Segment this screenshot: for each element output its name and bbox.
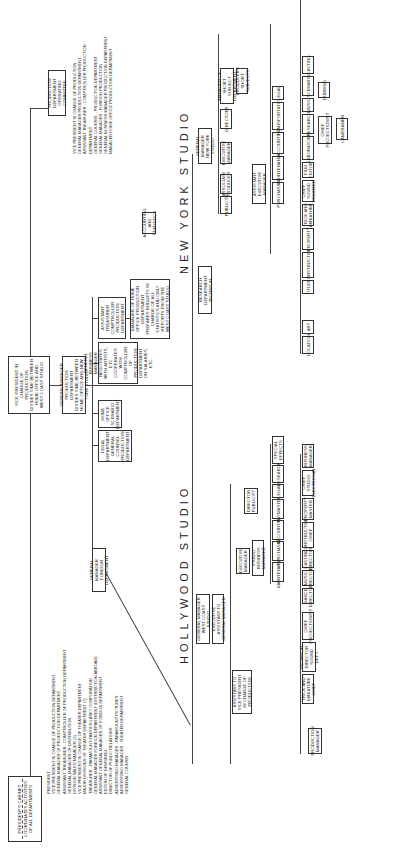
- business-manager-hw-box: BUSINESS MANAGER: [302, 444, 314, 468]
- asst-vp-box: ASSISTANT TO VICE PRESIDENT IN CHARGE OF…: [232, 670, 252, 714]
- property-master-box: PROPERTY MASTER: [302, 498, 314, 520]
- legal-dept-box: LEGAL DEPARTMENT GENERAL COUNSEL PRODUCT…: [98, 430, 132, 462]
- newyork-label: NEW YORK STUDIO: [178, 110, 190, 274]
- production-manager-box: PRODUCTION MANAGER: [308, 728, 322, 754]
- laboratory-ny-box: LABORATORY: [302, 136, 314, 160]
- dubbing-ny-box: DUBBING: [318, 82, 330, 98]
- transportation-ny-box: TRANSPORTATION: [272, 102, 284, 130]
- committee-members: VICE PRESIDENT IN CHARGE OF PRODUCTION G…: [72, 24, 114, 154]
- business-manager-box: GENERAL BUSINESS MANAGER NEGOTIATES WITH…: [98, 342, 138, 384]
- maintenance-ny-box: MAINTENANCE: [272, 156, 284, 180]
- chief-projectionist-box: CHIEF PROJECTIONIST: [302, 612, 314, 640]
- research-ny-box: RESEARCH: [302, 114, 314, 134]
- publicity-box: PUBLICITY: [220, 196, 232, 214]
- music-director-box: MUSIC DIRECTOR: [302, 570, 314, 586]
- trick-miniature-box: TRICK AND MINIATURE CHIEF: [302, 674, 314, 704]
- trick-miniature-ny-box: TRICK AND MINIATURE: [302, 204, 314, 226]
- short-subject-manager-box: MANAGER OF SHORT SUBJECT DEPARTMENT: [220, 68, 234, 104]
- accounting-statistics-box: ACCOUNTING AND STATISTICS: [142, 212, 156, 234]
- cabinet-members: PRESIDENT VICE PRESIDENT IN CHARGE OF PR…: [46, 554, 129, 794]
- casting-director-box: CASTING DIRECTOR: [302, 550, 314, 568]
- special-effects-box: SPECIAL EFFECTS: [272, 436, 284, 464]
- org-chart: PRESIDENT'S CABINET COORDINATES ACTIVITI…: [0, 0, 411, 854]
- music-ny-box: MUSIC: [302, 98, 314, 112]
- location-ny-box: LOCATION: [302, 336, 314, 354]
- gm-foreign-box: GENERAL MANAGER FOREIGN DEPARTMENT: [92, 548, 106, 592]
- associate-producer-box: ASSOCIATE PRODUCER: [220, 174, 232, 194]
- cameramen-ny-box: CAMERAMEN: [336, 118, 348, 140]
- legal-ny-box: LEGAL: [272, 86, 284, 100]
- art-ny-box: ART: [302, 320, 314, 334]
- research-box: RESEARCH: [272, 465, 284, 483]
- studio-business-manager-box: STUDIO BUSINESS MANAGER: [252, 540, 264, 576]
- gm-new-york-box: GENERAL MANAGER NEW YORK STUDIO: [198, 128, 212, 164]
- asst-exec-manager-box: ASSISTANT EXECUTIVE MANAGER: [252, 164, 266, 204]
- property-ny-box: PROPERTY: [302, 228, 314, 250]
- technical-director-sound-box: TECHNICAL DIRECTOR SOUND DEPT.: [302, 642, 316, 672]
- exec-manager-hw-box: EXECUTIVE MANAGER: [236, 548, 250, 574]
- vp-production-box: VICE PRESIDENT IN CHARGE OF PRODUCTION D…: [8, 356, 50, 414]
- accounting-box: ACCOUNTING: [272, 520, 284, 540]
- legal-box: LEGAL: [272, 484, 284, 498]
- committee-box: PRODUCTION DEPARTMENT OPERATING COMMITTE…: [48, 70, 66, 116]
- construction-chief-box: CONSTRUCTION CHIEF: [302, 522, 314, 548]
- chief-projectionist-ny-box: CHIEF PROJECTIONIST: [318, 116, 332, 144]
- gm-west-coast-box: GENERAL MANAGER WEST COAST STUDIO: [196, 594, 210, 644]
- scenario-ny-box: SCENARIO: [302, 76, 314, 96]
- construction-ny-box: CONSTRUCTION: [302, 252, 314, 278]
- treasurer-box: ASSISTANT TREASURER COMPTROLLER PRODUCTI…: [98, 297, 126, 339]
- chief-sound-ny-box: CHIEF SOUND ENGINEER: [302, 180, 314, 202]
- film-editor-ny-box: FILM EDITOR: [302, 162, 314, 178]
- presidents-cabinet-box: PRESIDENT'S CABINET COORDINATES ACTIVITI…: [8, 776, 42, 842]
- casting-ny-box: CASTING: [302, 56, 314, 74]
- director-publicity-box: DIRECTOR PUBLICITY: [244, 488, 258, 514]
- producers-short-box: PRODUCERS SHORT SUBJECTS: [236, 68, 248, 94]
- research-technical-box: RESEARCH DEPARTMENT TECHNICAL: [198, 266, 212, 314]
- scenario-dept-box: HOME OFFICE SCENARIO DEPARTMENT: [98, 400, 122, 428]
- hollywood-label: HOLLYWOOD STUDIO: [178, 485, 190, 664]
- purchasing-ny-box: PURCHASING: [272, 182, 284, 204]
- chief-electrician-box: CHIEF STUDIO ELECTRICIAN: [302, 470, 314, 496]
- home-office-manager-box: MANAGER OF HOME OFFICE PRODUCTION DEPART…: [130, 279, 170, 339]
- directors-ny-box: DIRECTORS: [220, 109, 232, 129]
- exec-assistant-box: EXECUTIVE ASSISTANT TO GENERAL MANAGER: [212, 594, 224, 644]
- paymaster-box: PAYMASTER: [272, 499, 284, 519]
- dance-director-box: DANCE DIRECTOR: [302, 588, 314, 604]
- executive-manager-ny-box: EXECUTIVE MANAGER: [220, 142, 232, 164]
